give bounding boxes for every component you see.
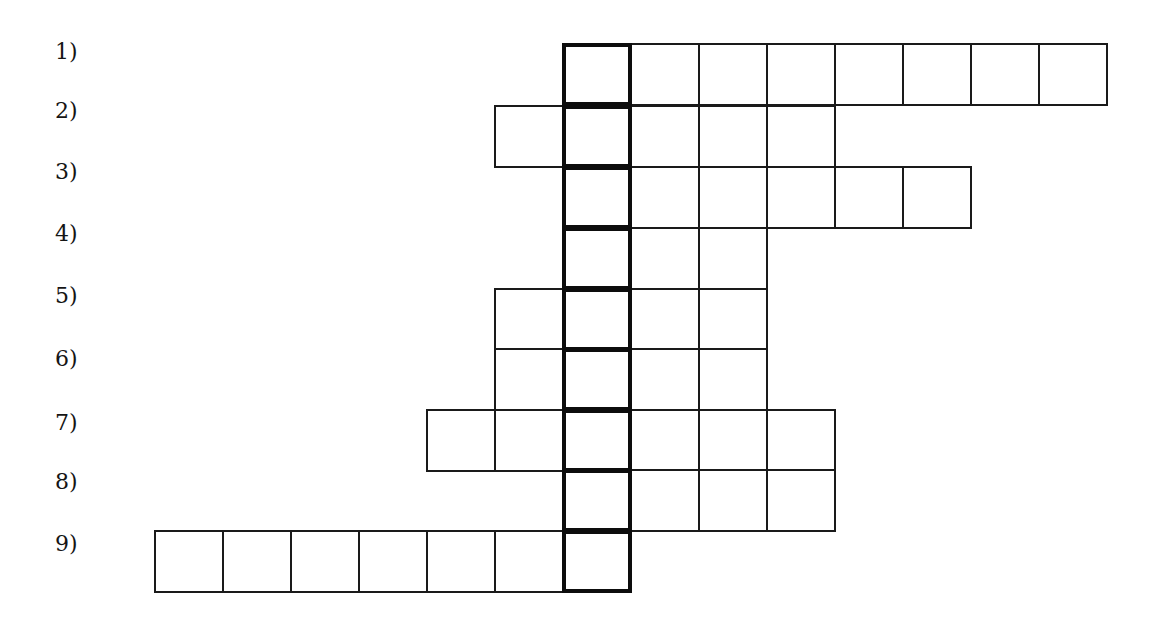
- answer-cell[interactable]: [698, 469, 768, 532]
- answer-cell[interactable]: [630, 469, 700, 532]
- clue-number-6: 6): [55, 347, 78, 371]
- keyword-cell[interactable]: [562, 469, 632, 532]
- answer-cell[interactable]: [766, 105, 836, 168]
- answer-cell[interactable]: [902, 166, 972, 229]
- keyword-cell[interactable]: [562, 348, 632, 411]
- clue-number-3: 3): [55, 160, 78, 184]
- keyword-cell[interactable]: [562, 530, 632, 593]
- answer-cell[interactable]: [494, 105, 564, 168]
- answer-cell[interactable]: [766, 43, 836, 106]
- keyword-cell[interactable]: [562, 409, 632, 472]
- clue-number-9: 9): [55, 532, 78, 556]
- answer-cell[interactable]: [426, 409, 496, 472]
- answer-cell[interactable]: [630, 105, 700, 168]
- answer-cell[interactable]: [766, 469, 836, 532]
- clue-number-1: 1): [55, 40, 78, 64]
- answer-cell[interactable]: [358, 530, 428, 593]
- keyword-cell[interactable]: [562, 43, 632, 106]
- answer-cell[interactable]: [630, 348, 700, 411]
- answer-cell[interactable]: [698, 166, 768, 229]
- clue-number-7: 7): [55, 411, 78, 435]
- answer-cell[interactable]: [630, 43, 700, 106]
- clue-number-5: 5): [55, 284, 78, 308]
- answer-cell[interactable]: [834, 43, 904, 106]
- answer-cell[interactable]: [494, 530, 564, 593]
- answer-cell[interactable]: [494, 288, 564, 351]
- answer-cell[interactable]: [834, 166, 904, 229]
- answer-cell[interactable]: [766, 166, 836, 229]
- answer-cell[interactable]: [698, 409, 768, 472]
- answer-cell[interactable]: [630, 409, 700, 472]
- clue-number-8: 8): [55, 470, 78, 494]
- answer-cell[interactable]: [222, 530, 292, 593]
- answer-cell[interactable]: [630, 166, 700, 229]
- answer-cell[interactable]: [154, 530, 224, 593]
- answer-cell[interactable]: [766, 409, 836, 472]
- answer-cell[interactable]: [698, 227, 768, 290]
- clue-number-2: 2): [55, 99, 78, 123]
- answer-cell[interactable]: [902, 43, 972, 106]
- answer-cell[interactable]: [426, 530, 496, 593]
- answer-cell[interactable]: [698, 288, 768, 351]
- keyword-cell[interactable]: [562, 166, 632, 229]
- answer-cell[interactable]: [630, 227, 700, 290]
- answer-cell[interactable]: [290, 530, 360, 593]
- answer-cell[interactable]: [698, 348, 768, 411]
- keyword-cell[interactable]: [562, 105, 632, 168]
- answer-cell[interactable]: [698, 43, 768, 106]
- answer-cell[interactable]: [630, 288, 700, 351]
- answer-cell[interactable]: [494, 409, 564, 472]
- keyword-cell[interactable]: [562, 288, 632, 351]
- clue-number-4: 4): [55, 222, 78, 246]
- keyword-cell[interactable]: [562, 227, 632, 290]
- answer-cell[interactable]: [494, 348, 564, 411]
- answer-cell[interactable]: [1038, 43, 1108, 106]
- crossword-puzzle: 1)2)3)4)5)6)7)8)9): [0, 0, 1157, 627]
- answer-cell[interactable]: [970, 43, 1040, 106]
- answer-cell[interactable]: [698, 105, 768, 168]
